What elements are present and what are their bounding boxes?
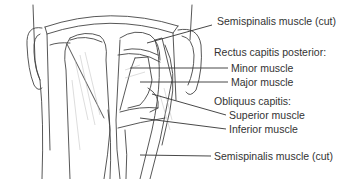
label-semispinalis-bottom: Semispinalis muscle (cut)	[214, 150, 333, 162]
label-obliquus-heading: Obliquus capitis:	[214, 95, 291, 107]
leader-lines	[130, 25, 228, 156]
skull-cut-top	[45, 16, 178, 27]
label-superior-muscle: Superior muscle	[229, 109, 305, 121]
leader-semispinalis-bottom	[140, 155, 211, 156]
right-muscle-top	[120, 32, 160, 60]
obliquus-superior	[148, 88, 158, 112]
neck-right-outline	[190, 5, 192, 40]
label-inferior-muscle: Inferior muscle	[229, 123, 298, 135]
label-minor-muscle: Minor muscle	[231, 62, 293, 74]
obliquus-inferior	[118, 118, 165, 128]
semispinalis-left	[70, 33, 110, 179]
semispinalis-right-strap	[150, 38, 172, 179]
label-rectus-heading: Rectus capitis posterior:	[214, 46, 326, 58]
label-major-muscle: Major muscle	[231, 76, 293, 88]
rectus-major	[128, 57, 152, 108]
label-semispinalis-top: Semispinalis muscle (cut)	[217, 15, 336, 27]
leader-semispinalis-top	[147, 25, 212, 43]
neck-left-outline	[33, 5, 43, 179]
